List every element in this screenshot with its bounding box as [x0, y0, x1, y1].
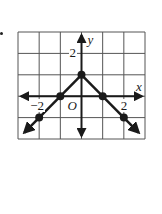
x-tick-label-neg2: −2: [29, 99, 45, 112]
origin-label: O: [67, 99, 78, 112]
x-tick-label-2: 2: [120, 99, 129, 112]
y-tick-label-2: 2: [69, 46, 78, 59]
y-axis-label: y: [87, 33, 95, 46]
function-graph: [0, 0, 162, 214]
x-axis-label: x: [135, 80, 143, 93]
